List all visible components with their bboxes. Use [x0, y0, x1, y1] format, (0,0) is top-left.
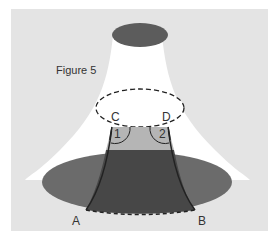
figure-title: Figure 5 — [56, 64, 96, 76]
point-c-label: C — [111, 110, 120, 124]
angle-1-label: 1 — [114, 127, 121, 141]
point-b-label: B — [198, 214, 206, 228]
hyperbolic-surface-diagram — [0, 0, 275, 238]
point-d-label: D — [162, 110, 171, 124]
angle-2-label: 2 — [159, 127, 166, 141]
top-ellipse — [112, 23, 168, 47]
point-a-label: A — [72, 214, 80, 228]
